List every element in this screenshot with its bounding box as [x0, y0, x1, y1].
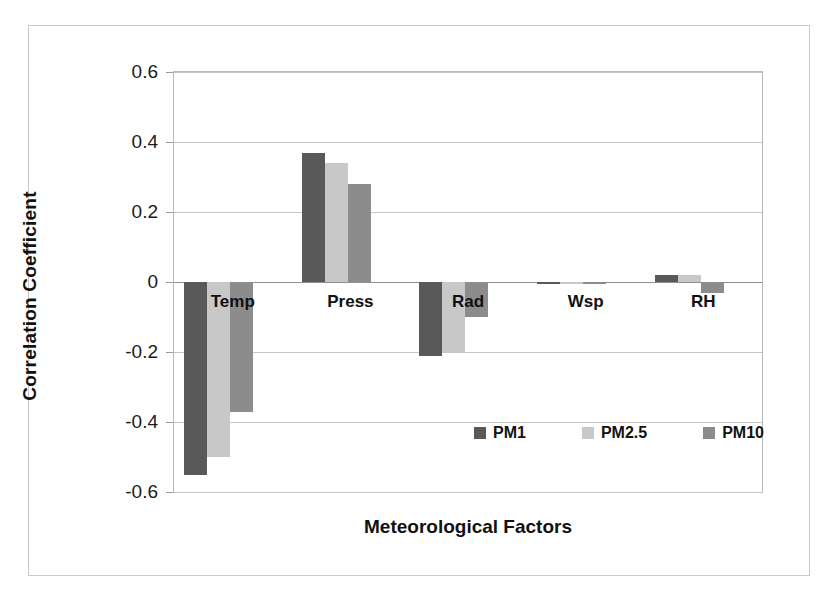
bar [348, 184, 371, 282]
bar-group: Press [292, 72, 410, 492]
bar [655, 275, 678, 282]
gridline [174, 492, 762, 493]
bar [537, 282, 560, 284]
y-axis-tick-mark [166, 282, 173, 283]
legend-item: PM10 [703, 424, 764, 442]
legend-item: PM2.5 [582, 424, 647, 442]
bar [678, 275, 701, 282]
x-axis-category-label: Wsp [527, 292, 645, 312]
y-axis-tick-label: -0.2 [125, 341, 158, 363]
legend-label: PM2.5 [601, 424, 647, 442]
y-axis-tick-label: 0.2 [132, 201, 158, 223]
bar [302, 153, 325, 283]
y-axis-tick-label: -0.6 [125, 481, 158, 503]
legend-label: PM1 [493, 424, 526, 442]
chart-legend: PM1PM2.5PM10 [474, 424, 764, 442]
chart-figure: Correlation Coefficient 0.60.40.20-0.2-0… [28, 25, 810, 576]
y-axis-tick-mark [166, 352, 173, 353]
plot-area: 0.60.40.20-0.2-0.4-0.6 TempPressRadWspRH… [173, 71, 763, 493]
bar [583, 282, 606, 284]
y-axis-tick-mark [166, 492, 173, 493]
x-axis-category-label: Rad [409, 292, 527, 312]
y-axis-tick-mark [166, 212, 173, 213]
y-axis-tick-label: 0.6 [132, 61, 158, 83]
x-axis-category-label: Press [292, 292, 410, 312]
y-axis-tick-label: 0.4 [132, 131, 158, 153]
y-axis-tick-mark [166, 72, 173, 73]
bar-group: Temp [174, 72, 292, 492]
legend-swatch-icon [703, 427, 715, 439]
y-axis-tick-label: -0.4 [125, 411, 158, 433]
y-axis-tick-mark [166, 142, 173, 143]
x-axis-title: Meteorological Factors [173, 516, 763, 538]
x-axis-category-label: Temp [174, 292, 292, 312]
bar [560, 282, 583, 284]
bar [325, 163, 348, 282]
legend-item: PM1 [474, 424, 526, 442]
bar [701, 282, 724, 293]
x-axis-category-label: RH [644, 292, 762, 312]
legend-label: PM10 [722, 424, 764, 442]
y-axis-tick-mark [166, 422, 173, 423]
y-axis-tick-label: 0 [147, 271, 158, 293]
legend-swatch-icon [474, 427, 486, 439]
y-axis-title: Correlation Coefficient [19, 146, 41, 446]
legend-swatch-icon [582, 427, 594, 439]
